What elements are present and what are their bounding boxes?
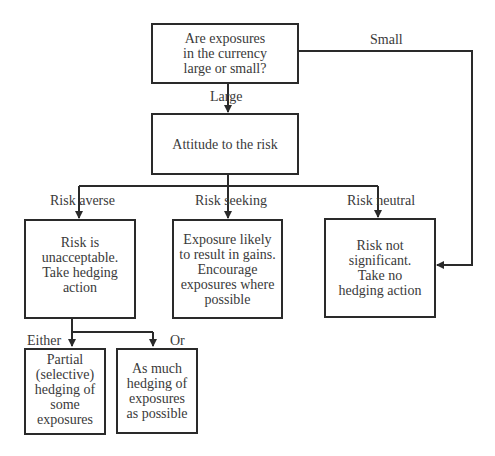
label-risk-neutral: Risk neutral bbox=[347, 193, 415, 208]
node-risk-neutral-text: Risk not significant. Take no hedging ac… bbox=[339, 238, 422, 298]
node-risk-seeking-text: Exposure likely to result in gains. Enco… bbox=[179, 232, 275, 307]
label-risk-averse: Risk averse bbox=[50, 193, 115, 208]
node-question: Are exposures in the currency large or s… bbox=[151, 23, 299, 84]
node-risk-averse-text: Risk is unacceptable. Take hedging actio… bbox=[42, 235, 119, 295]
node-full-hedging: As much hedging of exposures as possible bbox=[116, 348, 198, 434]
label-large: Large bbox=[210, 89, 242, 104]
node-risk-neutral: Risk not significant. Take no hedging ac… bbox=[324, 218, 436, 318]
node-question-text: Are exposures in the currency large or s… bbox=[183, 31, 267, 76]
node-attitude: Attitude to the risk bbox=[151, 113, 299, 175]
label-either: Either bbox=[27, 333, 61, 348]
node-partial-hedging: Partial (selective) hedging of some expo… bbox=[24, 348, 106, 435]
node-full-hedging-text: As much hedging of exposures as possible bbox=[126, 361, 187, 421]
label-or: Or bbox=[170, 333, 185, 348]
node-risk-averse: Risk is unacceptable. Take hedging actio… bbox=[24, 219, 136, 319]
node-risk-seeking: Exposure likely to result in gains. Enco… bbox=[172, 219, 283, 319]
node-attitude-text: Attitude to the risk bbox=[172, 137, 277, 152]
label-small: Small bbox=[370, 32, 403, 47]
label-risk-seeking: Risk seeking bbox=[195, 193, 267, 208]
node-partial-hedging-text: Partial (selective) hedging of some expo… bbox=[35, 352, 95, 427]
